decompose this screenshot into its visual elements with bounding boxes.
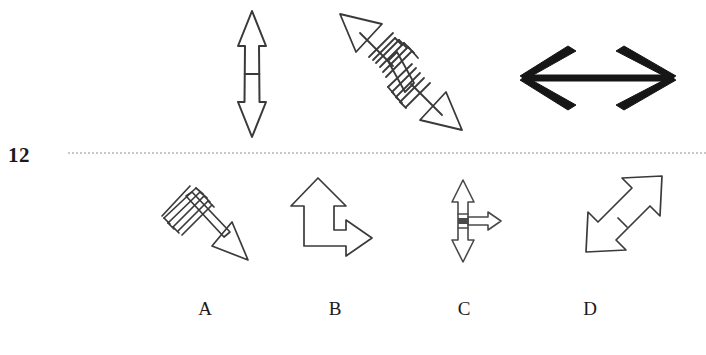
puzzle-page: 12 xyxy=(0,0,706,355)
option-label-c: C xyxy=(449,298,479,320)
option-a-figure[interactable] xyxy=(158,180,258,270)
option-c-figure[interactable] xyxy=(444,176,506,268)
stem-figure-bold-horizontal-double-arrow xyxy=(514,42,682,114)
option-label-d: D xyxy=(575,298,605,320)
item-number: 12 xyxy=(8,142,30,168)
stem-figure-diagonal-fletched-double-arrow xyxy=(336,8,466,136)
option-label-a: A xyxy=(190,298,220,320)
dotted-separator xyxy=(68,152,706,156)
option-b-figure[interactable] xyxy=(282,174,378,272)
stem-figures-row xyxy=(0,0,706,145)
option-label-b: B xyxy=(320,298,350,320)
answer-options-row: A B C D xyxy=(0,170,706,290)
option-d-figure[interactable] xyxy=(566,170,672,280)
stem-figure-vertical-double-arrow xyxy=(222,6,282,142)
